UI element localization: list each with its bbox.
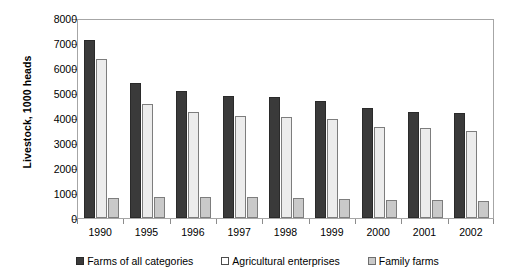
- bar: [432, 200, 443, 219]
- y-axis-tick-label: 1000: [11, 189, 77, 199]
- x-axis-tick-label: 2000: [355, 226, 401, 238]
- bar: [327, 119, 338, 219]
- bar-group: [84, 20, 119, 218]
- x-axis-tick-label: 1990: [77, 226, 123, 238]
- y-axis-tick-label: 2000: [11, 164, 77, 174]
- x-axis-tick-mark: [448, 219, 449, 224]
- y-axis-tick-label: 7000: [11, 39, 77, 49]
- x-axis-tick-mark: [309, 219, 310, 224]
- x-axis-tick-mark: [170, 219, 171, 224]
- bar-group: [269, 20, 304, 218]
- bar-group: [315, 20, 350, 218]
- bar: [142, 104, 153, 219]
- plot-area: [77, 19, 494, 219]
- bar: [96, 59, 107, 218]
- bar: [200, 197, 211, 218]
- legend-swatch-icon: [76, 257, 84, 265]
- y-axis-tick-label: 0: [11, 214, 77, 224]
- x-axis-tick-label: 1999: [309, 226, 355, 238]
- bar-group: [408, 20, 443, 218]
- y-axis: 010002000300040005000600070008000: [0, 0, 77, 280]
- x-axis-tick-mark: [401, 219, 402, 224]
- legend-swatch-icon: [368, 257, 376, 265]
- bar: [154, 197, 165, 218]
- bar-group: [454, 20, 489, 218]
- x-axis-tick-label: 1998: [262, 226, 308, 238]
- legend-label: Agricultural enterprises: [232, 255, 339, 267]
- bar: [420, 128, 431, 218]
- legend-label: Farms of all categories: [87, 255, 193, 267]
- legend-label: Family farms: [379, 255, 439, 267]
- bar: [293, 198, 304, 218]
- x-axis-tick-mark: [123, 219, 124, 224]
- x-axis-tick-mark: [216, 219, 217, 224]
- legend-entry: Farms of all categories: [76, 255, 193, 267]
- x-axis-tick-label: 1997: [216, 226, 262, 238]
- x-axis-tick-mark: [493, 219, 494, 224]
- legend-swatch-icon: [221, 257, 229, 265]
- bar: [269, 97, 280, 218]
- bar: [478, 201, 489, 218]
- bar: [386, 200, 397, 218]
- x-axis: 199019951996199719981999200020012002: [77, 219, 494, 249]
- bar: [188, 112, 199, 218]
- bar: [408, 112, 419, 218]
- bar-group: [362, 20, 397, 218]
- legend-entry: Agricultural enterprises: [221, 255, 339, 267]
- bar: [374, 127, 385, 218]
- bar: [176, 91, 187, 218]
- y-axis-tick-label: 3000: [11, 139, 77, 149]
- bar: [362, 108, 373, 218]
- bar-group: [176, 20, 211, 218]
- bar: [247, 197, 258, 218]
- bar: [466, 131, 477, 218]
- x-axis-tick-label: 1996: [170, 226, 216, 238]
- bar: [281, 117, 292, 218]
- bar: [223, 96, 234, 218]
- bar: [235, 116, 246, 218]
- x-axis-tick-label: 1995: [123, 226, 169, 238]
- bar-group: [223, 20, 258, 218]
- x-axis-tick-mark: [262, 219, 263, 224]
- bar: [315, 101, 326, 218]
- bar: [130, 83, 141, 218]
- bar: [84, 40, 95, 218]
- x-axis-tick-label: 2001: [401, 226, 447, 238]
- chart-legend: Farms of all categoriesAgricultural ente…: [0, 252, 515, 270]
- x-axis-tick-label: 2002: [448, 226, 494, 238]
- y-axis-tick-label: 4000: [11, 114, 77, 124]
- y-axis-tick-label: 6000: [11, 64, 77, 74]
- bar: [108, 198, 119, 218]
- y-axis-tick-label: 5000: [11, 89, 77, 99]
- x-axis-tick-mark: [77, 219, 78, 224]
- legend-entry: Family farms: [368, 255, 439, 267]
- bar: [454, 113, 465, 218]
- bars-layer: [78, 20, 493, 218]
- bar: [339, 199, 350, 218]
- bar-group: [130, 20, 165, 218]
- x-axis-tick-mark: [355, 219, 356, 224]
- y-axis-tick-label: 8000: [11, 14, 77, 24]
- bar-chart: Livestock, 1000 heads 010002000300040005…: [0, 0, 515, 280]
